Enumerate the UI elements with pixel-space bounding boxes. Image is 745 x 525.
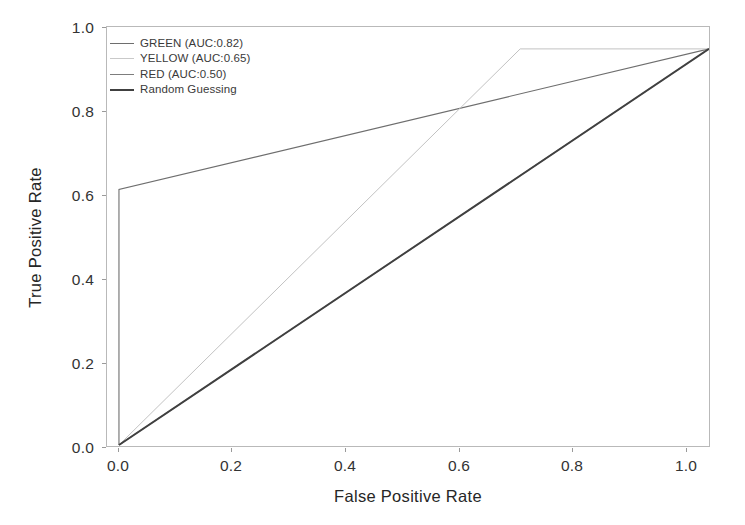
roc-curve-random <box>119 49 709 445</box>
legend-item-random-guessing: Random Guessing <box>109 82 250 98</box>
y-axis-title: True Positive Rate <box>26 27 45 448</box>
y-tick-label-2: 0.4 <box>48 271 94 289</box>
x-tick-label-1: 0.2 <box>208 457 254 475</box>
y-tick-mark-3 <box>102 195 106 196</box>
legend-line-icon-red <box>109 69 135 78</box>
roc-curve-figure: 0.0 0.2 0.4 0.6 0.8 1.0 0.0 0.2 0.4 0.6 … <box>0 0 745 525</box>
x-tick-mark-5 <box>686 448 687 452</box>
x-tick-mark-3 <box>459 448 460 452</box>
x-tick-label-4: 0.8 <box>549 457 595 475</box>
legend-item-green: GREEN (AUC:0.82) <box>109 35 250 51</box>
y-tick-mark-1 <box>102 363 106 364</box>
y-tick-label-0: 0.0 <box>48 439 94 457</box>
y-tick-mark-5 <box>102 27 106 28</box>
x-tick-mark-1 <box>231 448 232 452</box>
y-tick-label-4: 0.8 <box>48 103 94 121</box>
y-tick-label-3: 0.6 <box>48 187 94 205</box>
x-tick-mark-0 <box>118 448 119 452</box>
legend: GREEN (AUC:0.82) YELLOW (AUC:0.65) RED (… <box>107 32 256 101</box>
y-tick-mark-0 <box>102 447 106 448</box>
legend-label-yellow: YELLOW (AUC:0.65) <box>140 52 250 64</box>
legend-label-green: GREEN (AUC:0.82) <box>140 37 243 49</box>
x-tick-mark-4 <box>572 448 573 452</box>
legend-line-icon-random-guessing <box>109 85 135 94</box>
curves-group <box>119 49 709 445</box>
legend-item-yellow: YELLOW (AUC:0.65) <box>109 51 250 67</box>
legend-label-random-guessing: Random Guessing <box>140 83 237 95</box>
x-tick-label-2: 0.4 <box>322 457 368 475</box>
legend-label-red: RED (AUC:0.50) <box>140 68 226 80</box>
y-tick-label-5: 1.0 <box>48 19 94 37</box>
x-tick-label-0: 0.0 <box>95 457 141 475</box>
y-tick-label-1: 0.2 <box>48 355 94 373</box>
legend-line-icon-green <box>109 38 135 47</box>
x-tick-label-3: 0.6 <box>436 457 482 475</box>
x-tick-label-5: 1.0 <box>663 457 709 475</box>
y-tick-mark-4 <box>102 111 106 112</box>
x-tick-mark-2 <box>345 448 346 452</box>
legend-line-icon-yellow <box>109 54 135 63</box>
x-axis-title: False Positive Rate <box>106 487 710 506</box>
legend-item-red: RED (AUC:0.50) <box>109 66 250 82</box>
y-tick-mark-2 <box>102 279 106 280</box>
